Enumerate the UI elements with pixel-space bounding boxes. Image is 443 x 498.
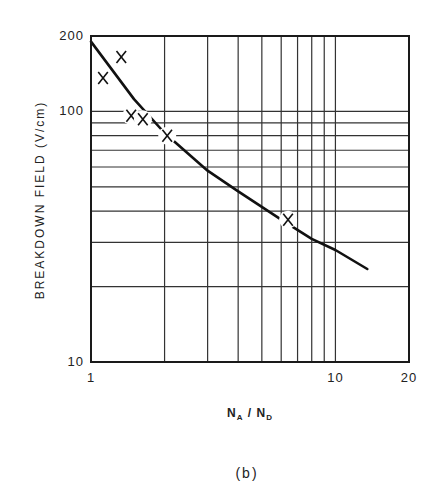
- y-tick-label: 200: [59, 28, 84, 43]
- data-markers: [94, 48, 297, 229]
- x-tick-label: 10: [327, 370, 343, 385]
- x-axis-label: NA / ND: [227, 406, 273, 422]
- y-tick-label: 10: [68, 354, 84, 369]
- fit-curve: [91, 42, 367, 269]
- x-tick-label: 1: [87, 370, 95, 385]
- x-marker: [134, 110, 152, 128]
- x-marker: [158, 127, 176, 145]
- y-tick-label: 100: [59, 103, 84, 118]
- x-marker: [94, 69, 112, 87]
- chart-canvas: [0, 0, 443, 498]
- figure-caption: (b): [235, 465, 258, 481]
- x-tick-label: 20: [401, 370, 417, 385]
- y-axis-label: BREAKDOWN FIELD (V/cm): [33, 101, 47, 300]
- x-marker: [112, 48, 130, 66]
- x-marker: [279, 211, 297, 229]
